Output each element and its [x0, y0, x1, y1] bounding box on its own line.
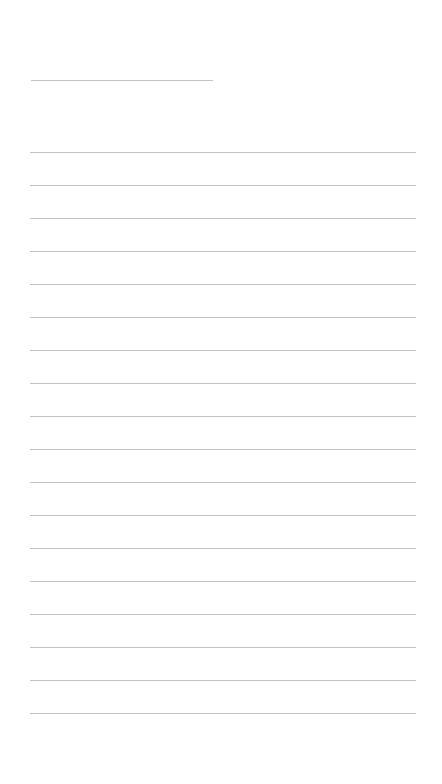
- ruled-line[interactable]: [30, 449, 416, 450]
- ruled-line[interactable]: [30, 152, 416, 153]
- ruled-line[interactable]: [30, 185, 416, 186]
- ruled-line[interactable]: [30, 482, 416, 483]
- ruled-line[interactable]: [30, 350, 416, 351]
- ruled-line[interactable]: [30, 383, 416, 384]
- ruled-line[interactable]: [30, 680, 416, 681]
- ruled-line[interactable]: [30, 548, 416, 549]
- ruled-line[interactable]: [30, 581, 416, 582]
- ruled-line[interactable]: [30, 515, 416, 516]
- ruled-line[interactable]: [30, 284, 416, 285]
- ruled-line[interactable]: [30, 416, 416, 417]
- ruled-line[interactable]: [30, 647, 416, 648]
- ruled-line[interactable]: [30, 218, 416, 219]
- ruled-line[interactable]: [30, 614, 416, 615]
- ruled-line[interactable]: [30, 251, 416, 252]
- ruled-lines-area: [30, 0, 416, 784]
- ruled-line[interactable]: [30, 317, 416, 318]
- ruled-line[interactable]: [30, 713, 416, 714]
